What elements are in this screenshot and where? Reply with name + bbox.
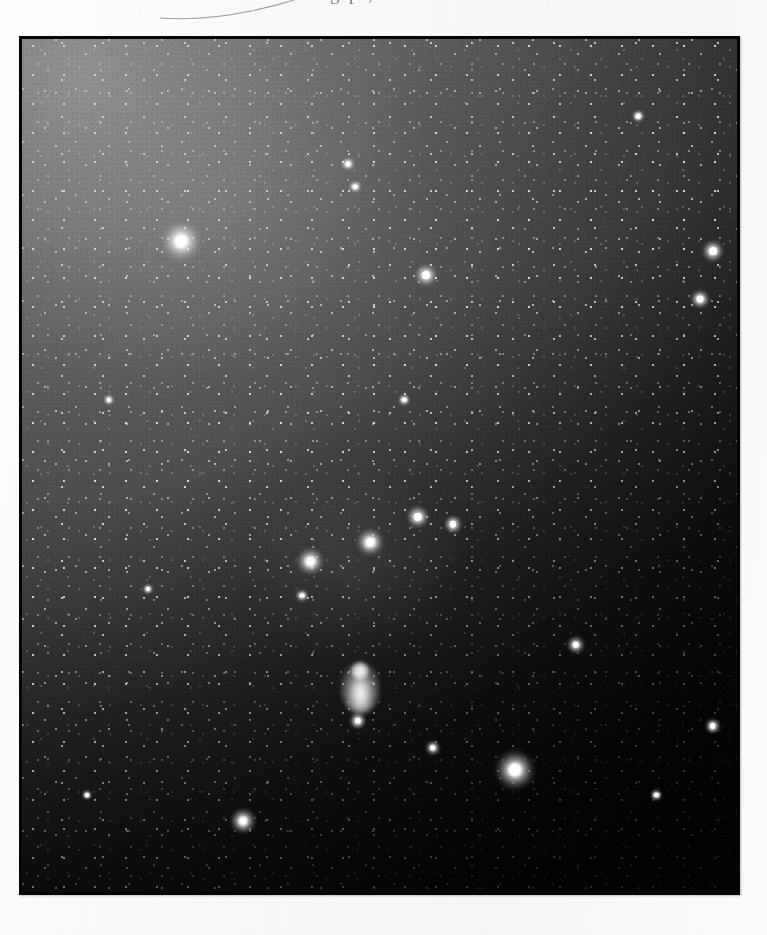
film-emulsion-speckle bbox=[22, 39, 737, 892]
scanned-page-surface: g p , r bbox=[0, 0, 767, 935]
page-header-text: g p , r bbox=[330, 0, 391, 5]
page-header-strip: g p , r bbox=[0, 0, 767, 14]
astrophotograph-plate bbox=[19, 36, 740, 895]
star-field-image bbox=[22, 39, 737, 892]
